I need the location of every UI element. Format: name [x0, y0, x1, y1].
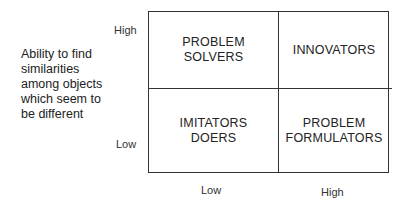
y-axis-label: Ability to find similarities among objec…	[21, 47, 131, 122]
quadrant-label-line: INNOVATORS	[293, 43, 376, 58]
quadrant-problem-solvers: PROBLEM SOLVERS	[149, 12, 278, 88]
x-tick-low: Low	[201, 184, 221, 196]
x-tick-high: High	[321, 186, 344, 198]
quadrant-innovators: INNOVATORS	[279, 12, 389, 88]
quadrant-label-line: FORMULATORS	[286, 131, 383, 146]
y-axis-label-line: be different	[21, 107, 131, 122]
quadrant-problem-formulators: PROBLEM FORMULATORS	[279, 89, 389, 173]
quadrant-imitators-doers: IMITATORS DOERS	[149, 89, 278, 173]
y-axis-label-line: which seem to	[21, 92, 131, 107]
y-axis-label-line: similarities	[21, 62, 131, 77]
quadrant-label-line: PROBLEM	[286, 116, 383, 131]
quadrant-label-line: DOERS	[180, 131, 248, 146]
y-axis-label-line: Ability to find	[21, 47, 131, 62]
quadrant-label-line: PROBLEM	[182, 35, 245, 50]
y-axis-label-line: among objects	[21, 77, 131, 92]
y-tick-low: Low	[116, 138, 136, 150]
y-tick-high: High	[114, 24, 137, 36]
quadrant-label-line: IMITATORS	[180, 116, 248, 131]
quadrant-label-line: SOLVERS	[182, 50, 245, 65]
